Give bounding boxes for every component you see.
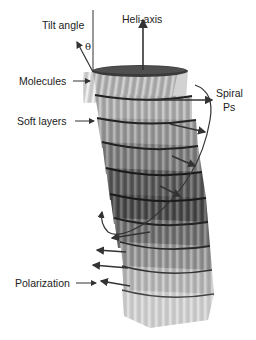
spiral-ps-label-line2: Ps (223, 102, 235, 113)
ferroelectric-helix-diagram (0, 0, 256, 340)
theta-symbol: θ (85, 42, 91, 52)
soft-layers-label: Soft layers (17, 116, 67, 127)
heli-axis-label: Heli-axis (122, 14, 162, 25)
polarization-label: Polarization (15, 278, 70, 289)
spiral-ps-label-line1: Spiral (216, 88, 243, 99)
molecules-label: Molecules (19, 76, 66, 87)
layer-stack (79, 65, 214, 328)
molecular-layer (122, 290, 214, 328)
spiral-curve-end (102, 212, 108, 232)
tilt-angle-label: Tilt angle (42, 20, 84, 31)
